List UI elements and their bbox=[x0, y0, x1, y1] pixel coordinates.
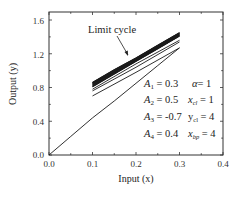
x-tick-3: 0.3 bbox=[174, 159, 186, 169]
param-a1: A1 = 0.3 bbox=[143, 78, 178, 91]
limit-cycle-label: Limit cycle bbox=[88, 24, 136, 35]
y-tick-4: 1.6 bbox=[33, 16, 45, 26]
x-tick-4: 0.4 bbox=[217, 159, 229, 169]
param-ycl: ycl = 4 bbox=[188, 111, 215, 123]
param-a3: A3 = -0.7 bbox=[143, 111, 182, 124]
y-axis-title: Output (y) bbox=[7, 63, 19, 105]
x-tick-0: 0.0 bbox=[43, 159, 55, 169]
param-a4: A4 = 0.4 bbox=[143, 128, 179, 141]
param-a2: A2 = 0.5 bbox=[143, 94, 178, 107]
y-tick-0: 0.0 bbox=[33, 150, 45, 160]
y-tick-1: 0.4 bbox=[33, 117, 45, 127]
y-tick-2: 0.8 bbox=[33, 83, 45, 93]
parameter-block: A1 = 0.3 A2 = 0.5 A3 = -0.7 A4 = 0.4 α= … bbox=[143, 78, 216, 141]
x-tick-labels: 0.0 0.1 0.2 0.3 0.4 bbox=[43, 159, 229, 169]
x-axis-title: Input (x) bbox=[118, 173, 153, 185]
x-tick-1: 0.1 bbox=[87, 159, 98, 169]
param-xcl: xcl = 1 bbox=[187, 94, 214, 106]
arrow-head-icon bbox=[125, 51, 129, 57]
x-tick-2: 0.2 bbox=[130, 159, 141, 169]
limit-cycle-loop bbox=[93, 33, 180, 83]
chart: 0.0 0.1 0.2 0.3 0.4 0.0 0.4 0.8 1.2 1.6 … bbox=[0, 0, 241, 199]
y-tick-3: 1.2 bbox=[33, 50, 44, 60]
param-alpha: α= 1 bbox=[192, 78, 211, 89]
y-tick-labels: 0.0 0.4 0.8 1.2 1.6 bbox=[33, 16, 45, 160]
param-xbp: xbp = 4 bbox=[187, 128, 216, 140]
